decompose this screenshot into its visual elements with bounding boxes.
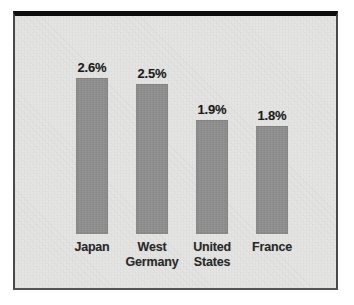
bar-rect — [196, 120, 228, 234]
bar-rect — [256, 126, 288, 234]
bar-rect — [136, 84, 168, 234]
bar-category-label: France — [235, 240, 309, 255]
chart-plot-area: 2.6% Japan 2.5% West Germany 1.9% United — [15, 16, 336, 288]
chart-frame-border: 2.6% Japan 2.5% West Germany 1.9% United — [13, 11, 338, 290]
bar-category-line: France — [235, 240, 309, 255]
bar-value-label: 2.5% — [121, 66, 183, 81]
bar-category-line: States — [175, 255, 249, 270]
bar-value-label: 1.9% — [181, 102, 243, 117]
bar-rect — [76, 78, 108, 234]
bar-chart-figure: 2.6% Japan 2.5% West Germany 1.9% United — [0, 0, 354, 305]
bar-value-label: 1.8% — [241, 108, 303, 123]
bar-value-label: 2.6% — [61, 60, 123, 75]
